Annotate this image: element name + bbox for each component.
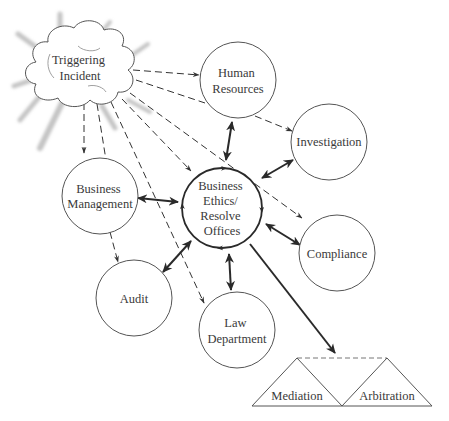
outcomes: Mediation Arbitration [252,358,432,406]
svg-text:Audit: Audit [120,292,149,306]
svg-text:Business Ethics/ R: Business Ethics/ Resolve Offices [198,179,246,238]
node-law-department: Law Department [199,292,275,368]
svg-text:Investigation: Investigation [296,135,362,149]
triggering-incident-cloud: Triggering Incident [26,21,135,107]
node-investigation: Investigation [291,104,367,180]
outcome-mediation: Mediation [252,358,342,406]
svg-text:Arbitration: Arbitration [359,389,415,403]
node-business-management: Business Management [62,158,138,234]
svg-text:Business Management: Business Management [67,182,133,211]
node-compliance: Compliance [299,215,375,291]
outcome-arbitration: Arbitration [342,358,432,406]
node-audit: Audit [96,260,172,336]
ethics-process-diagram: Triggering Incident Human Resources Inve… [0,0,449,421]
node-business-ethics-resolve-offices: Business Ethics/ Resolve Offices [182,168,262,248]
svg-text:Compliance: Compliance [307,247,368,261]
svg-text:Mediation: Mediation [271,389,323,403]
node-human-resources: Human Resources [200,42,276,118]
